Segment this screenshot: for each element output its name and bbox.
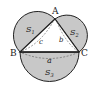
point-a-label: A: [51, 6, 59, 16]
point-b-label: B: [10, 48, 17, 58]
side-c-label: c: [39, 38, 43, 46]
point-c-label: C: [81, 48, 88, 58]
semicircles-on-triangle-diagram: A B C c b a S1 S2 S3: [0, 0, 98, 91]
side-a-label: a: [47, 56, 52, 65]
side-b-label: b: [59, 36, 64, 44]
